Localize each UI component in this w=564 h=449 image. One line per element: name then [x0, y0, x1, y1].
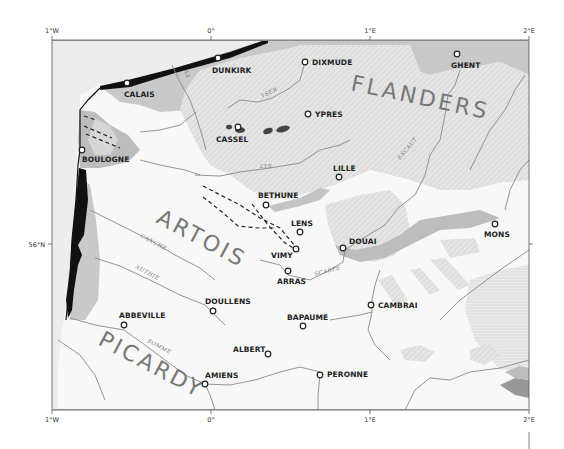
town-label: CAMBRAI	[378, 301, 418, 310]
town-label: DIXMUDE	[312, 58, 352, 67]
town-marker-icon[interactable]	[285, 268, 291, 274]
longitude-label-bottom: 1°E	[364, 416, 376, 424]
town-label: CASSEL	[216, 135, 248, 144]
town-marker-icon[interactable]	[293, 246, 299, 252]
town-label: LILLE	[333, 164, 356, 173]
cassel-hill	[226, 125, 232, 130]
town-marker-icon[interactable]	[317, 372, 323, 378]
longitude-label-top: 1°W	[45, 27, 59, 35]
town-label: CALAIS	[124, 90, 155, 99]
town-label: YPRES	[314, 110, 343, 119]
map-canvas: 1°W1°W0°0°1°E1°E2°E2°E56°N FLANDERSARTOI…	[0, 0, 564, 449]
town-label: DOUAI	[349, 237, 377, 246]
town-marker-icon[interactable]	[202, 381, 208, 387]
town-marker-icon[interactable]	[124, 80, 130, 86]
town-label: AMIENS	[205, 371, 238, 380]
town-marker-icon[interactable]	[340, 245, 346, 251]
longitude-label-bottom: 2°E	[523, 416, 535, 424]
town-label: BAPAUME	[287, 313, 328, 322]
town-marker-icon[interactable]	[336, 174, 342, 180]
town-label: VIMY	[271, 251, 293, 260]
town-marker-icon[interactable]	[210, 308, 216, 314]
river-label-lys: LYS	[259, 163, 272, 169]
town-label: GHENT	[451, 61, 481, 70]
town-marker-icon[interactable]	[302, 59, 308, 65]
town-marker-icon[interactable]	[300, 323, 306, 329]
town-marker-icon[interactable]	[297, 229, 303, 235]
town-marker-icon[interactable]	[215, 55, 221, 61]
town-marker-icon[interactable]	[305, 111, 311, 117]
town-label: BOULOGNE	[82, 155, 129, 164]
town-marker-icon[interactable]	[454, 51, 460, 57]
town-marker-icon[interactable]	[121, 322, 127, 328]
longitude-label-bottom: 0°	[207, 416, 214, 424]
town-label: DOULLENS	[205, 297, 251, 306]
longitude-label-top: 0°	[207, 27, 214, 35]
town-label: PERONNE	[327, 370, 368, 379]
town-marker-icon[interactable]	[492, 221, 498, 227]
town-label: ABBEVILLE	[119, 311, 166, 320]
town-label: ALBERT	[233, 345, 266, 354]
town-label: LENS	[291, 219, 313, 228]
town-label: ARRAS	[277, 277, 306, 286]
town-label: MONS	[484, 230, 510, 239]
town-marker-icon[interactable]	[265, 351, 271, 357]
town-label: BETHUNE	[258, 191, 298, 200]
longitude-label-top: 1°E	[364, 27, 376, 35]
longitude-label-top: 2°E	[523, 27, 535, 35]
town-marker-icon[interactable]	[368, 302, 374, 308]
town-marker-icon[interactable]	[79, 147, 85, 153]
town-label: DUNKIRK	[212, 66, 253, 75]
town-marker-icon[interactable]	[263, 202, 269, 208]
town-marker-icon[interactable]	[235, 124, 241, 130]
latitude-label: 56°N	[29, 241, 46, 249]
longitude-label-bottom: 1°W	[45, 416, 59, 424]
